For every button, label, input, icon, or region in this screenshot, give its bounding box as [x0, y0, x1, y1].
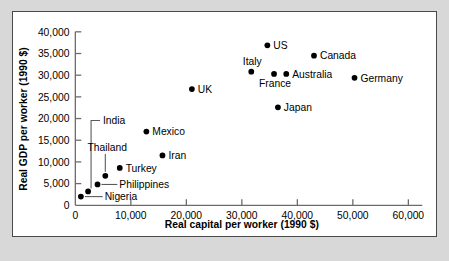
x-tick-label: 60,000 [393, 210, 425, 221]
point-label-nigeria: Nigeria [105, 191, 138, 202]
leader-india [91, 121, 100, 189]
point-label-iran: Iran [168, 150, 186, 161]
data-point-india[interactable] [85, 189, 91, 195]
point-label-japan: Japan [284, 102, 312, 113]
point-label-us: US [273, 40, 287, 51]
y-tick-label: 40,000 [38, 27, 70, 38]
figure-frame: 05,00010,00015,00020,00025,00030,00035,0… [12, 11, 437, 237]
x-tick-label: 50,000 [337, 210, 369, 221]
data-point-thailand[interactable] [102, 173, 108, 179]
y-tick-label: 10,000 [38, 157, 70, 168]
point-label-philippines: Philippines [119, 179, 169, 190]
data-point-italy[interactable] [248, 69, 254, 75]
data-point-philippines[interactable] [95, 182, 101, 188]
caption-text [14, 247, 17, 257]
point-label-turkey: Turkey [126, 163, 158, 174]
y-tick-label: 20,000 [38, 113, 70, 124]
y-tick-label: 15,000 [38, 135, 70, 146]
data-point-germany[interactable] [352, 75, 358, 81]
point-labels-group: NigeriaIndiaPhilippinesThailandTurkeyMex… [88, 40, 404, 202]
y-tick-label: 5,000 [44, 178, 70, 189]
data-point-turkey[interactable] [117, 165, 123, 171]
point-label-australia: Australia [292, 69, 332, 80]
data-point-us[interactable] [265, 42, 271, 48]
y-tick-label: 25,000 [38, 92, 70, 103]
point-label-germany: Germany [360, 73, 403, 84]
page-caption-clipped [14, 243, 444, 257]
data-point-australia[interactable] [283, 71, 289, 77]
data-point-iran[interactable] [160, 153, 166, 159]
data-point-uk[interactable] [189, 86, 195, 92]
y-tick-label: 0 [64, 200, 70, 211]
point-label-mexico: Mexico [152, 126, 185, 137]
tick-labels-group: 05,00010,00015,00020,00025,00030,00035,0… [38, 27, 424, 222]
point-label-italy: Italy [243, 56, 263, 67]
point-label-france: France [259, 78, 291, 89]
point-label-india: India [103, 115, 126, 126]
leader-lines-group [85, 121, 118, 197]
y-axis-title: Real GDP per worker (1990 $) [18, 47, 29, 190]
data-point-france[interactable] [271, 71, 277, 77]
x-axis-title: Real capital per worker (1990 $) [165, 219, 319, 230]
y-tick-label: 30,000 [38, 70, 70, 81]
point-label-thailand: Thailand [88, 142, 128, 153]
point-label-canada: Canada [320, 50, 356, 61]
data-point-mexico[interactable] [144, 129, 150, 135]
data-point-japan[interactable] [275, 104, 281, 110]
point-label-uk: UK [198, 84, 212, 95]
data-point-nigeria[interactable] [78, 194, 84, 200]
y-tick-label: 35,000 [38, 48, 70, 59]
scatter-plot: 05,00010,00015,00020,00025,00030,00035,0… [13, 12, 436, 236]
data-point-canada[interactable] [311, 53, 317, 59]
x-tick-label: 10,000 [115, 210, 147, 221]
x-tick-label: 0 [72, 210, 78, 221]
